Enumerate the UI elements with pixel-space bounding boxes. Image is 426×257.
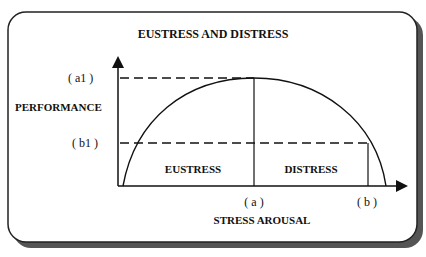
tick-a1: ( a1 ) [68, 71, 93, 85]
tick-b1: ( b1 ) [72, 136, 98, 150]
tick-a: ( a ) [244, 195, 263, 209]
region-eustress: EUSTRESS [165, 163, 221, 175]
frame [8, 12, 417, 242]
diagram-title: EUSTRESS AND DISTRESS [138, 27, 289, 41]
y-axis-label: PERFORMANCE [15, 101, 102, 113]
eustress-distress-diagram: EUSTRESS AND DISTRESS ( a1 ) ( b1 ) PERF… [0, 0, 426, 257]
tick-b: ( b ) [357, 195, 377, 209]
x-axis-label: STRESS AROUSAL [214, 214, 311, 226]
region-distress: DISTRESS [284, 163, 337, 175]
